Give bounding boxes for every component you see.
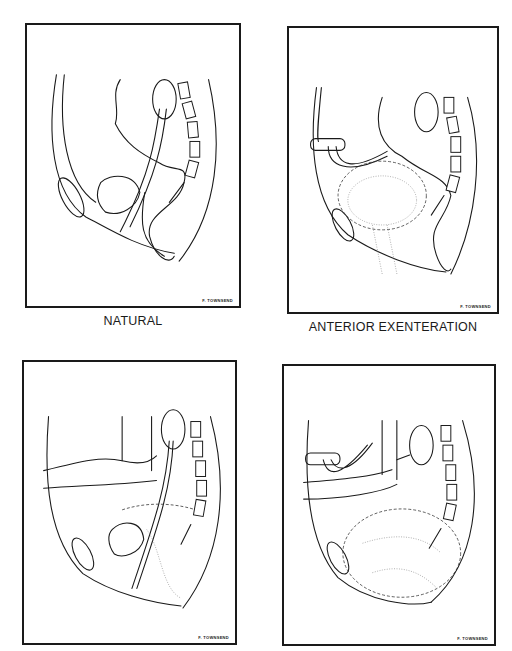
illustration-panel-natural: F. TOWNSEND — [25, 23, 241, 308]
illustration-panel-4: F. TOWNSEND — [282, 364, 496, 646]
pelvic-anatomy-illustration-3 — [24, 362, 235, 643]
caption-natural: NATURAL — [25, 314, 241, 328]
artist-signature: F. TOWNSEND — [198, 635, 229, 640]
artist-signature: F. TOWNSEND — [202, 298, 233, 303]
illustration-panel-anterior-exenteration: F. TOWNSEND — [287, 26, 499, 314]
artist-signature: F. TOWNSEND — [457, 636, 488, 641]
pelvic-anatomy-illustration-4 — [284, 366, 494, 644]
artist-signature: F. TOWNSEND — [460, 304, 491, 309]
pelvic-anatomy-anterior-exenteration-illustration — [289, 28, 497, 312]
illustration-panel-3: F. TOWNSEND — [22, 360, 237, 645]
pelvic-anatomy-natural-illustration — [27, 25, 239, 306]
caption-anterior-exenteration: ANTERIOR EXENTERATION — [270, 320, 512, 334]
